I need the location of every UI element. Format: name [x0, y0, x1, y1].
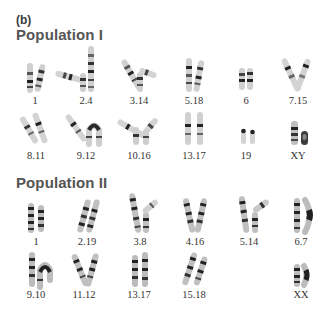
chromosome-label: 3.14 — [130, 95, 148, 106]
chromosome-pair-9-10-pop2 — [29, 252, 50, 287]
chromosome-pair-2-19-pop2 — [77, 199, 101, 233]
chromosome-label: XY — [290, 150, 305, 161]
chromosome-pair-3-8-pop2 — [129, 193, 159, 233]
chromosome-label: 6.7 — [294, 236, 307, 247]
chromosome-pair-10-16-pop1 — [116, 117, 159, 145]
chromosome-pair-xx-pop2 — [294, 264, 307, 287]
chromosome-pair-9-12-pop1 — [64, 113, 102, 144]
chromosome-label: 3.8 — [133, 236, 146, 247]
chromosome-label: XX — [293, 289, 308, 300]
chromosome-label: 10.16 — [127, 150, 151, 161]
karyotype-figure — [0, 0, 323, 311]
chromosome-pair-8-11-pop1 — [19, 112, 48, 145]
chromosome-pair-11-12-pop2 — [71, 253, 99, 287]
chromosome-pair-3-14-pop1 — [120, 58, 157, 92]
chromosome-pair-5-14-pop2 — [239, 196, 271, 233]
chromosome-label: 8.11 — [27, 150, 45, 161]
chromosome-pair-5-18-pop1 — [186, 58, 205, 92]
chromosome-label: 7.15 — [289, 95, 307, 106]
chromosome-label: 9.12 — [77, 150, 95, 161]
chromosome-pair-7-15-pop1 — [281, 57, 312, 92]
chromosome-label: 1 — [33, 236, 38, 247]
chromosome-pair-4-16-pop2 — [183, 198, 208, 233]
chromosome-pair-13-17-pop2 — [132, 252, 148, 287]
chromosome-pair-1-pop1 — [27, 63, 46, 93]
chromosome-label: 5.14 — [240, 236, 258, 247]
chromosome-label: 4.16 — [186, 236, 204, 247]
chromosome-label: 6 — [243, 95, 248, 106]
chromosome-pair-15-18-pop2 — [182, 252, 209, 286]
chromosome-label: 2.4 — [79, 95, 92, 106]
chromosome-label: 19 — [241, 150, 252, 161]
chromosome-pair-xy-pop1 — [291, 121, 308, 145]
chromosome-label: 1 — [32, 95, 37, 106]
chromosome-pair-6-pop1 — [239, 68, 253, 90]
chromosome-label: 15.18 — [182, 289, 206, 300]
chromosome-label: 11.12 — [72, 289, 95, 300]
chromosome-pair-2-4-pop1 — [55, 46, 94, 92]
chromosome-label: 13.17 — [182, 150, 206, 161]
chromosome-pair-6-7-pop2 — [294, 198, 310, 233]
chromosome-pair-13-17-pop1 — [185, 112, 203, 145]
chromosome-label: 5.18 — [185, 95, 203, 106]
chromosome-label: 13.17 — [127, 289, 151, 300]
chromosome-pair-19-pop1 — [241, 129, 255, 144]
chromosome-label: 2.19 — [78, 236, 96, 247]
chromosome-pair-1-pop2 — [28, 203, 44, 233]
chromosome-label: 9.10 — [27, 289, 45, 300]
